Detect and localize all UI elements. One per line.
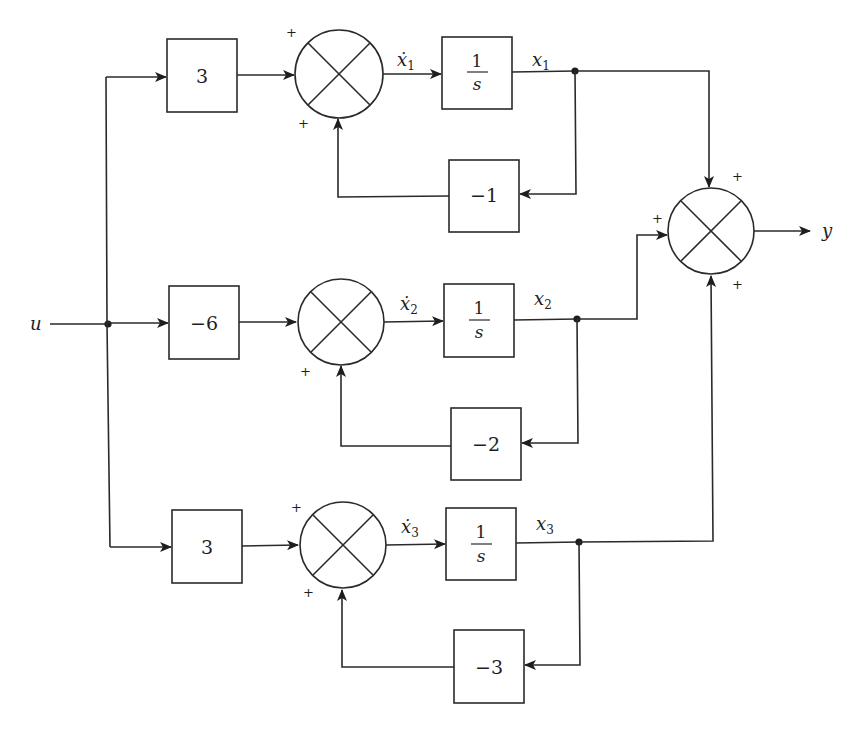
- output-label: y: [821, 220, 833, 241]
- x1-label: x1: [532, 49, 550, 73]
- input-signal: u: [30, 77, 171, 547]
- sign-out-top: +: [732, 169, 743, 184]
- integrator-block-b1: [442, 37, 512, 109]
- summing-junction-b3: [300, 502, 386, 588]
- sign-out-left: +: [652, 211, 663, 226]
- gain-b2-value: −6: [190, 312, 218, 334]
- sign-b1-bottom: +: [298, 116, 309, 131]
- svg-text:1: 1: [474, 298, 485, 318]
- x2-label: x2: [534, 288, 552, 312]
- branch-1: 3 + + ẋ1 1 s x1 −1: [167, 25, 709, 232]
- feedback-b3-value: −3: [475, 656, 503, 678]
- gain-b1-value: 3: [196, 65, 208, 87]
- feedback-b2-value: −2: [472, 433, 500, 455]
- sign-b3-bottom: +: [303, 585, 314, 600]
- branch-2: −6 + ẋ2 1 s x2 −2: [169, 235, 667, 480]
- sign-b1-top: +: [286, 25, 297, 40]
- svg-text:s: s: [477, 546, 486, 566]
- x3-label: x3: [536, 513, 554, 537]
- input-label: u: [30, 313, 42, 334]
- xdot2-label: ẋ2: [400, 293, 418, 317]
- branch-3: 3 + + ẋ3 1 s x3 −3: [172, 276, 713, 703]
- sign-b3-top: +: [291, 500, 302, 515]
- xdot1-label: ẋ1: [397, 49, 415, 73]
- summing-junction-b1: [295, 30, 383, 118]
- svg-text:s: s: [473, 74, 482, 94]
- sign-b2-bottom: +: [300, 364, 311, 379]
- xdot3-label: ẋ3: [401, 516, 419, 540]
- svg-text:1: 1: [472, 51, 483, 71]
- svg-text:s: s: [475, 322, 484, 342]
- sign-out-bottom: +: [732, 277, 743, 292]
- svg-text:1: 1: [476, 522, 487, 542]
- feedback-b1-value: −1: [470, 184, 498, 206]
- input-junction-dot: [104, 320, 111, 327]
- gain-b3-value: 3: [201, 536, 213, 558]
- block-diagram: u 3 + + ẋ1 1 s x1: [0, 0, 854, 737]
- output-summing-junction: [668, 188, 754, 274]
- summing-junction-b2: [298, 279, 384, 365]
